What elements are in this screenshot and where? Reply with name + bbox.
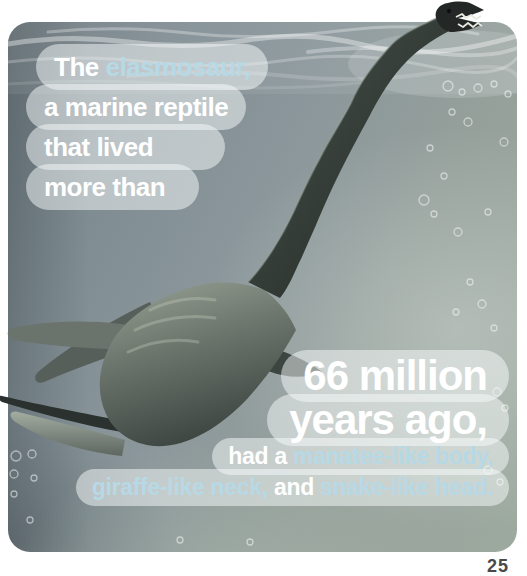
caption-text-white: The <box>54 52 105 82</box>
caption-text-white: had a <box>228 443 293 469</box>
caption-top-line-4: more than <box>26 164 199 210</box>
caption-top-cloud: The elasmosaur, a marine reptile that li… <box>26 44 268 204</box>
page-number: 25 <box>487 556 509 576</box>
caption-bottom-cloud: 66 million years ago, had a manatee-like… <box>76 350 509 500</box>
caption-top-line-3: that lived <box>26 124 225 170</box>
caption-text-white: and <box>274 474 320 500</box>
caption-text-highlight: snake-like head. <box>320 474 493 500</box>
caption-top-line-2: a marine reptile <box>26 84 246 130</box>
caption-text-highlight: giraffe-like neck, <box>92 474 274 500</box>
caption-bottom-line-4: giraffe-like neck, and snake-like head. <box>76 469 509 506</box>
caption-text-highlight: elasmosaur, <box>105 52 250 82</box>
caption-top-line-1: The elasmosaur, <box>36 44 268 90</box>
caption-bottom-line-3: had a manatee-like body, <box>212 438 509 475</box>
caption-bottom-big-1: 66 million <box>281 350 509 402</box>
caption-bottom-big-2: years ago, <box>267 394 509 446</box>
caption-text-highlight: manatee-like body, <box>293 443 493 469</box>
eye <box>447 9 451 13</box>
